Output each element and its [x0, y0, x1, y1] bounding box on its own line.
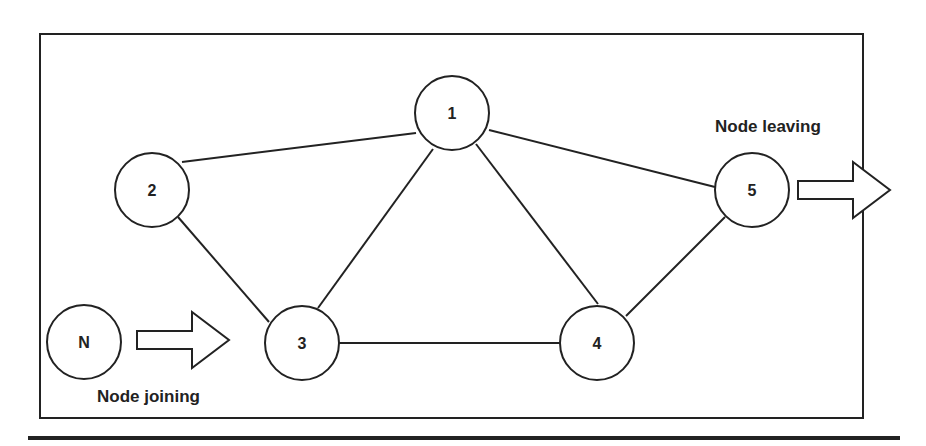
- node-label: 5: [748, 182, 757, 199]
- node-5: 5: [715, 153, 789, 227]
- node-label: 1: [448, 105, 457, 122]
- node-2: 2: [115, 153, 189, 227]
- network-diagram: 1 2 3 4 5 N Node joining Node leaving: [0, 0, 926, 446]
- node-joining-label: Node joining: [97, 387, 200, 406]
- right-arrow-icon: [137, 312, 229, 368]
- edges: [178, 130, 725, 343]
- node-1: 1: [415, 76, 489, 150]
- bottom-divider: [28, 436, 900, 440]
- right-arrow-icon: [798, 162, 890, 218]
- node-label: 4: [593, 335, 602, 352]
- edge-1-5: [489, 130, 715, 187]
- node-3: 3: [265, 306, 339, 380]
- node-label: 3: [298, 335, 307, 352]
- node-new: N: [47, 305, 121, 379]
- node-label: 2: [148, 182, 157, 199]
- node-label: N: [78, 334, 90, 351]
- edge-1-3: [318, 149, 433, 308]
- node-4: 4: [560, 306, 634, 380]
- edge-2-1: [182, 133, 416, 162]
- node-leaving-label: Node leaving: [715, 117, 821, 136]
- edge-4-5: [626, 217, 725, 316]
- edge-2-3: [178, 217, 269, 322]
- edge-1-4: [476, 144, 598, 304]
